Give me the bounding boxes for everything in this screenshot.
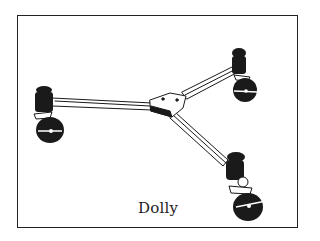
caption: Dolly [138,199,178,217]
lower-right-arm [170,113,228,166]
left-arm [52,98,152,110]
left-caster [34,86,64,143]
lower-right-caster [226,152,266,221]
upper-right-caster [232,48,258,102]
upper-right-arm [182,66,238,99]
center-hub [150,93,186,117]
